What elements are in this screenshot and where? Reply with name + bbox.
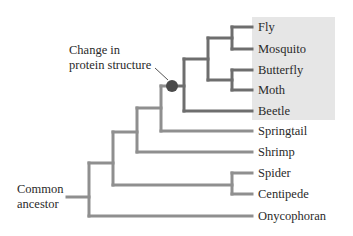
taxon-label-moth: Moth bbox=[258, 83, 285, 97]
taxon-label-onycophoran: Onycophoran bbox=[258, 209, 326, 223]
taxon-label-centipede: Centipede bbox=[258, 187, 309, 201]
taxon-label-spider: Spider bbox=[258, 166, 291, 180]
taxon-label-fly: Fly bbox=[258, 20, 275, 34]
taxon-label-beetle: Beetle bbox=[258, 104, 290, 118]
taxon-label-butterfly: Butterfly bbox=[258, 63, 303, 77]
annotation-line-1: Change in bbox=[69, 43, 151, 58]
root-line-1: Common bbox=[17, 182, 64, 197]
taxon-label-shrimp: Shrimp bbox=[258, 145, 295, 159]
protein-change-marker bbox=[166, 80, 178, 92]
taxon-label-springtail: Springtail bbox=[258, 124, 307, 138]
insect-branches bbox=[172, 27, 252, 111]
taxon-label-mosquito: Mosquito bbox=[258, 42, 306, 56]
outer-branches bbox=[67, 86, 252, 216]
annotation-leader-line bbox=[155, 68, 168, 80]
annotation-label: Change in protein structure bbox=[69, 43, 151, 73]
root-label: Common ancestor bbox=[17, 182, 64, 212]
root-line-2: ancestor bbox=[17, 197, 64, 212]
annotation-line-2: protein structure bbox=[69, 58, 151, 73]
